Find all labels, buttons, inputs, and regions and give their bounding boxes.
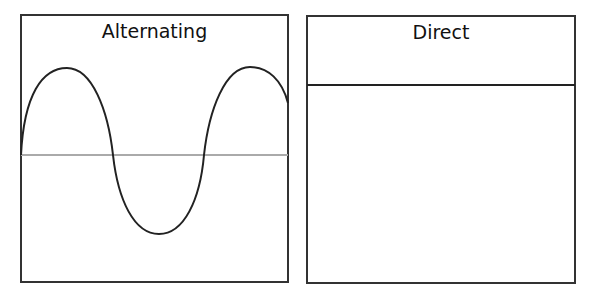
sine-wave bbox=[21, 67, 288, 234]
waveform-graphics bbox=[0, 0, 591, 300]
